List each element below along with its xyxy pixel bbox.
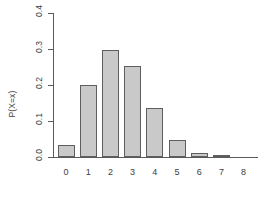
- y-axis-tick-label-text: 0.0: [34, 149, 44, 161]
- bar-chart: P(X=x) 0.00.10.20.30.4 012345678: [0, 0, 273, 208]
- bar: [191, 153, 208, 157]
- y-axis-tick: [48, 121, 53, 122]
- y-axis-tick-label: 0.3: [33, 42, 45, 52]
- y-axis-tick-label-text: 0.1: [34, 113, 44, 125]
- y-axis-tick: [48, 157, 53, 158]
- y-axis-tick: [48, 13, 53, 14]
- y-axis-label: P(X=x): [2, 0, 22, 208]
- x-axis-tick-label: 8: [236, 167, 252, 177]
- bar: [102, 50, 119, 157]
- y-axis-tick-label-text: 0.2: [34, 77, 44, 89]
- bar: [169, 140, 186, 157]
- x-axis-tick-label: 2: [102, 167, 118, 177]
- bar: [124, 66, 141, 157]
- bar: [146, 108, 163, 157]
- bar: [58, 145, 75, 157]
- y-axis-tick-label: 0.0: [33, 150, 45, 160]
- bar: [80, 85, 97, 157]
- x-axis-tick-label: 6: [191, 167, 207, 177]
- y-axis-tick-label: 0.2: [33, 78, 45, 88]
- bar: [213, 155, 230, 157]
- y-axis-tick-label: 0.4: [33, 6, 45, 16]
- x-axis-tick-label: 7: [213, 167, 229, 177]
- y-axis-line: [53, 13, 54, 158]
- x-axis-tick-label: 5: [169, 167, 185, 177]
- x-axis-tick-label: 0: [58, 167, 74, 177]
- x-axis-tick-label: 1: [80, 167, 96, 177]
- x-axis-line: [53, 157, 258, 158]
- y-axis-tick: [48, 85, 53, 86]
- y-axis-tick-label-text: 0.3: [34, 41, 44, 53]
- y-axis-tick-label: 0.1: [33, 114, 45, 124]
- y-axis-label-text: P(X=x): [7, 91, 17, 118]
- x-axis-tick-label: 3: [125, 167, 141, 177]
- y-axis-tick-label-text: 0.4: [34, 5, 44, 17]
- y-axis-tick: [48, 49, 53, 50]
- x-axis-tick-label: 4: [147, 167, 163, 177]
